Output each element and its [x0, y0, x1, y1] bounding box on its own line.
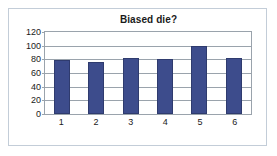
x-axis: 123456: [44, 117, 252, 127]
bar: [191, 46, 207, 114]
x-axis-label: 3: [113, 117, 148, 127]
x-axis-label: 6: [217, 117, 252, 127]
bar-slot: [182, 32, 216, 114]
y-axis-label: 20: [11, 95, 41, 105]
y-axis-label: 80: [11, 54, 41, 64]
bar: [88, 62, 104, 114]
bar-slot: [217, 32, 251, 114]
y-axis-label: 100: [11, 41, 41, 51]
x-axis-label: 2: [79, 117, 114, 127]
bar-series: [45, 32, 251, 114]
x-axis-label: 1: [44, 117, 79, 127]
y-axis-tick: [42, 114, 45, 115]
bar: [54, 60, 70, 114]
bar: [157, 59, 173, 114]
x-axis-label: 5: [183, 117, 218, 127]
bar-slot: [148, 32, 182, 114]
bar: [123, 58, 139, 114]
chart-container: Biased die? 020406080100120 123456: [8, 8, 267, 146]
bar-slot: [114, 32, 148, 114]
y-axis-label: 0: [11, 109, 41, 119]
x-axis-label: 4: [148, 117, 183, 127]
bar-slot: [79, 32, 113, 114]
plot-area: 020406080100120: [44, 31, 252, 115]
y-axis-label: 60: [11, 68, 41, 78]
y-axis-label: 120: [11, 27, 41, 37]
y-axis-label: 40: [11, 82, 41, 92]
bar: [226, 58, 242, 114]
chart-title: Biased die?: [9, 14, 266, 25]
bar-slot: [45, 32, 79, 114]
